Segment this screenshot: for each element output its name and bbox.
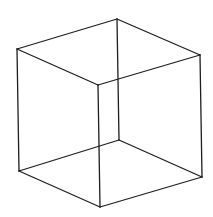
cube-diagram	[0, 0, 213, 217]
wireframe-cube	[0, 0, 213, 217]
cube-edge-GH	[100, 177, 202, 207]
cube-edge-CD	[98, 55, 200, 85]
cube-edge-AB	[17, 19, 117, 49]
cube-edge-AE	[17, 49, 19, 171]
cube-edge-EF	[19, 140, 119, 171]
cube-edge-BC	[117, 19, 200, 55]
cube-edge-HE	[19, 171, 100, 207]
cube-edge-CG	[200, 55, 202, 177]
cube-edge-FG	[119, 140, 202, 177]
cube-edge-DA	[17, 49, 98, 85]
